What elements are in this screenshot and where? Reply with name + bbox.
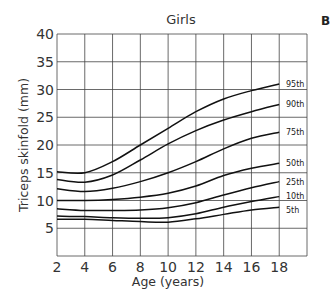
growth-chart: Girls B 510152025303540 24681012141618 9… [0,0,333,299]
x-tick-label: 2 [53,259,62,275]
x-tick-label: 14 [215,259,233,275]
y-tick-label: 5 [45,220,54,236]
x-tick-label: 8 [136,259,145,275]
y-tick-label: 20 [36,137,54,153]
chart-title: Girls [166,12,196,27]
label-90th: 90th [286,100,304,109]
y-tick-label: 10 [36,193,54,209]
x-tick-label: 12 [187,259,205,275]
y-axis-ticks: 510152025303540 [36,26,54,236]
percentile-labels: 95th90th75th50th25th10th5th [286,80,304,215]
x-tick-label: 18 [270,259,288,275]
x-tick-label: 16 [243,259,261,275]
y-axis-label: Triceps skinfold (mm) [16,78,31,213]
label-75th: 75th [286,128,304,137]
y-tick-label: 25 [36,109,54,125]
x-axis-label: Age (years) [132,274,204,289]
label-5th: 5th [286,206,299,215]
x-tick-label: 6 [108,259,117,275]
x-axis-ticks: 24681012141618 [53,259,289,275]
x-tick-label: 10 [159,259,177,275]
y-tick-label: 15 [36,165,54,181]
y-tick-label: 35 [36,54,54,70]
label-95th: 95th [286,80,304,89]
panel-label: B [321,14,330,28]
label-50th: 50th [286,159,304,168]
grid [57,34,307,256]
x-tick-label: 4 [80,259,89,275]
y-tick-label: 30 [36,82,54,98]
label-25th: 25th [286,178,304,187]
y-tick-label: 40 [36,26,54,42]
label-10th: 10th [286,192,304,201]
